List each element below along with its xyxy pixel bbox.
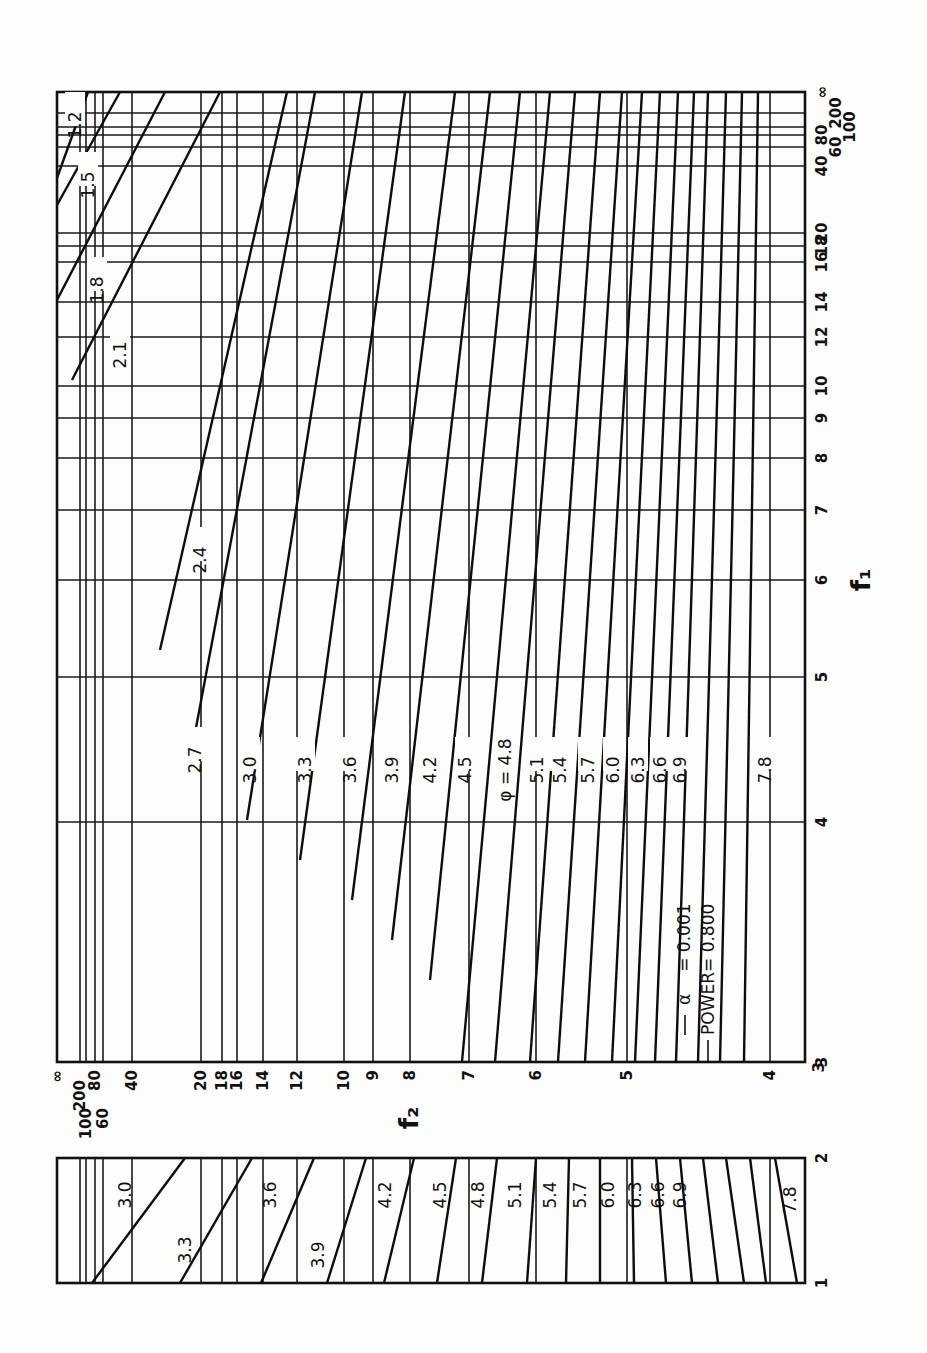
curve-label: 2.7 [185, 746, 205, 773]
f1-tick-label: 10 [813, 376, 831, 397]
lower-curve-label: 3.3 [175, 1236, 195, 1263]
f1-tick-label-lower: 1 [813, 1278, 831, 1288]
curve-label: 6.0 [603, 756, 623, 783]
f1-tick-label: 6 [813, 575, 831, 585]
f1-tick-label: 5 [813, 672, 831, 682]
f2-tick-label: 100 [77, 1108, 95, 1139]
f1-tick-label: 12 [813, 327, 831, 348]
curve-label: 5.1 [527, 756, 547, 783]
lower-curve-label: 6.3 [625, 1181, 645, 1208]
f1-tick-label: 8 [813, 453, 831, 463]
phi-curve-lower [726, 1158, 744, 1283]
phi-curve [392, 92, 490, 940]
f1-tick-label: 4 [813, 817, 831, 827]
f1-tick-label: ∞ [813, 86, 831, 99]
curve-label: 2.1 [110, 341, 130, 368]
phi-curve-lower [527, 1158, 536, 1283]
f1-tick-label: 60 [827, 137, 845, 158]
f2-tick-label: 7 [460, 1070, 478, 1080]
curve-label: 1.8 [87, 276, 107, 303]
power-chart: ∞200100806040201816141210987654321 ∞2001… [0, 0, 927, 1353]
f1-axis-labels: ∞200100806040201816141210987654321 [813, 86, 859, 1288]
f2-tick-label: 20 [192, 1070, 210, 1091]
curve-label: 2.4 [190, 546, 210, 573]
f2-tick-label: 4 [761, 1070, 779, 1080]
phi-curve-lower [566, 1158, 569, 1283]
phi-curve-lower [92, 1158, 185, 1283]
f2-axis-title: f₂ [394, 1107, 424, 1130]
f1-tick-label-lower: 2 [813, 1153, 831, 1163]
f2-tick-label: 14 [254, 1070, 272, 1091]
curve-label: 5.7 [578, 756, 598, 783]
phi-curve [635, 92, 678, 1062]
f1-tick-label: 7 [813, 505, 831, 515]
phi-curve [744, 92, 758, 1062]
curve-label: φ = 4.8 [495, 738, 515, 801]
phi-curve [612, 92, 660, 1062]
curve-label: 3.6 [340, 756, 360, 783]
curve-label: 3.3 [295, 756, 315, 783]
lower-curve-label: 6.6 [648, 1181, 668, 1208]
lower-curve-label: 3.9 [308, 1241, 328, 1268]
lower-chart-curves [92, 1158, 797, 1283]
phi-curve-lower [750, 1158, 766, 1283]
f2-tick-label: 40 [123, 1070, 141, 1091]
f2-tick-label: 9 [364, 1070, 382, 1080]
f2-tick-label: 3 [810, 1062, 828, 1072]
phi-curve-lower [775, 1158, 797, 1283]
f2-tick-label: 12 [288, 1070, 306, 1091]
f2-tick-label: 5 [618, 1070, 636, 1080]
f2-tick-label: ∞ [48, 1070, 66, 1083]
f2-tick-label: 80 [86, 1070, 104, 1091]
lower-curve-label: 5.4 [540, 1181, 560, 1208]
legend-power: POWER= 0.800 [698, 904, 718, 1035]
lower-curve-label: 6.0 [598, 1181, 618, 1208]
lower-curve-label: 5.7 [570, 1181, 590, 1208]
lower-chart-frame [57, 1158, 805, 1283]
main-chart-curves [57, 92, 758, 1062]
f1-tick-label: 16 [813, 252, 831, 273]
curve-label: 6.6 [650, 756, 670, 783]
f2-tick-label: 6 [527, 1070, 545, 1080]
legend-alpha: α= 0.001 [674, 903, 694, 1005]
phi-curve-lower [703, 1158, 718, 1283]
f1-axis-title: f₁ [846, 569, 876, 592]
f1-tick-label: 40 [813, 156, 831, 177]
curve-label: 1.5 [78, 171, 98, 198]
phi-curve [160, 92, 287, 650]
curve-label: 5.4 [550, 756, 570, 783]
phi-curve-lower [680, 1158, 692, 1283]
phi-curve-lower [656, 1158, 666, 1283]
f2-tick-label: 60 [94, 1108, 112, 1129]
curve-label: 3.9 [382, 756, 402, 783]
lower-curve-label: 4.5 [430, 1181, 450, 1208]
curve-label: 3.0 [240, 756, 260, 783]
phi-curve-lower [482, 1158, 497, 1283]
phi-curve [720, 92, 742, 1062]
f1-tick-label: 14 [813, 292, 831, 313]
curve-label: 1.2 [65, 111, 85, 138]
f2-tick-label: 8 [401, 1070, 419, 1080]
f1-tick-label: 9 [813, 413, 831, 423]
lower-curve-label: 5.1 [505, 1181, 525, 1208]
lower-curve-label: 6.9 [670, 1181, 690, 1208]
curve-label: 4.2 [420, 756, 440, 783]
legend: α= 0.001 POWER= 0.800 [674, 903, 718, 1062]
lower-curve-label: 3.0 [115, 1181, 135, 1208]
curve-label: 6.9 [670, 756, 690, 783]
f2-axis-labels: ∞2001008060402018161412109876543 [48, 1062, 828, 1139]
curve-label: 7.8 [755, 756, 775, 783]
lower-curve-label: 4.2 [375, 1181, 395, 1208]
phi-curve-lower [437, 1158, 456, 1283]
lower-curve-label: 7.8 [780, 1186, 800, 1213]
f2-tick-label: 10 [335, 1070, 353, 1091]
curve-label: 4.5 [455, 756, 475, 783]
phi-curve-lower [327, 1158, 366, 1283]
phi-curve-lower [632, 1158, 634, 1283]
phi-curve-lower [261, 1158, 314, 1283]
lower-curve-label: 3.6 [260, 1181, 280, 1208]
lower-curve-label: 4.8 [468, 1181, 488, 1208]
f2-tick-label: 16 [228, 1070, 246, 1091]
curve-label: 6.3 [628, 756, 648, 783]
